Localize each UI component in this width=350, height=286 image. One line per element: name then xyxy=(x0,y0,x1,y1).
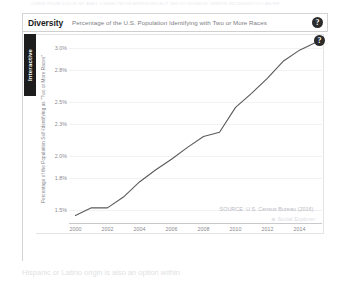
x-axis-tick-label: 2014 xyxy=(294,226,306,232)
widget-subtitle: Percentage of the U.S. Population Identi… xyxy=(72,19,312,26)
interactive-tab-label: Interactive xyxy=(27,49,33,81)
x-axis-tick-label: 2008 xyxy=(198,226,210,232)
page-bottom-caption: Hispanic or Latino origin is also an opt… xyxy=(22,268,332,278)
page-top-caption: LOREM IPSUM DOLOR SIT AMET CONSECTETUR A… xyxy=(30,1,330,6)
help-question-icon[interactable]: ? xyxy=(312,17,323,28)
page-title: Diversity xyxy=(28,18,63,28)
x-axis-tick-label: 2004 xyxy=(133,226,145,232)
series-line xyxy=(75,43,315,216)
screenshot-root: LOREM IPSUM DOLOR SIT AMET CONSECTETUR A… xyxy=(0,0,350,286)
x-axis-tick-label: 2002 xyxy=(101,226,113,232)
diversity-chart-widget: Diversity Percentage of the U.S. Populat… xyxy=(22,13,328,261)
interactive-tab[interactable]: Interactive xyxy=(24,34,36,96)
x-axis-tick-label: 2010 xyxy=(230,226,242,232)
plot-area: Percentage of the Population Self-Identi… xyxy=(37,35,323,233)
source-note: SOURCE: U.S. Census Bureau (2016). xyxy=(220,206,315,212)
x-axis-tick-labels: 20002002200420062008201020122014 xyxy=(69,225,322,235)
watermark: ◈ Social Explorer xyxy=(271,215,315,222)
x-axis-tick-label: 2000 xyxy=(69,226,81,232)
watermark-label: Social Explorer xyxy=(277,216,315,222)
x-axis-tick-label: 2012 xyxy=(262,226,274,232)
widget-header: Diversity Percentage of the U.S. Populat… xyxy=(23,14,327,32)
diamond-icon: ◈ xyxy=(271,215,276,222)
x-axis-line xyxy=(69,223,322,224)
line-series xyxy=(37,35,323,223)
x-axis-tick-label: 2006 xyxy=(165,226,177,232)
help-question-icon-inner[interactable]: ? xyxy=(314,35,325,46)
chart-panel: ? Interactive Percentage of the Populati… xyxy=(23,32,329,261)
